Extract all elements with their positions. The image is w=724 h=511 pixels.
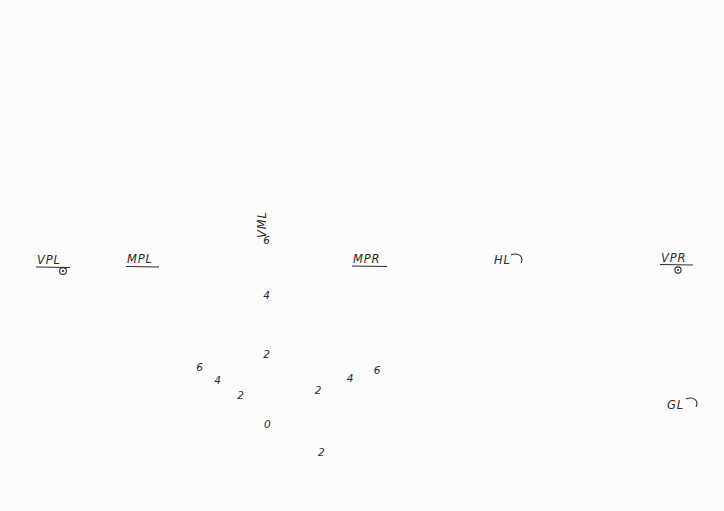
vpl-underline xyxy=(36,267,70,268)
vml-scale-2: 2 xyxy=(263,348,270,360)
gl-curl-arrow-icon xyxy=(686,398,697,407)
left-diag-scale-4: 4 xyxy=(214,374,221,386)
vanishing-point-right-dot xyxy=(677,269,679,271)
left-diag-scale-6: 6 xyxy=(196,361,203,373)
mpr-underline xyxy=(352,266,387,267)
vanishing-point-left-dot xyxy=(62,270,64,272)
right-diag-scale-4: 4 xyxy=(347,372,354,384)
annotations: VPL MPL MPR HL VPR GL VML 0 6 4 2 6 4 2 … xyxy=(36,211,697,458)
hl-curl-arrow-icon xyxy=(511,254,522,263)
mpr-label: MPR xyxy=(353,252,380,266)
right-diag-scale-6: 6 xyxy=(374,364,381,376)
vpr-label: VPR xyxy=(661,251,686,265)
hl-label: HL xyxy=(494,253,511,267)
vpr-underline xyxy=(660,265,693,266)
left-diag-scale-2: 2 xyxy=(237,389,244,401)
perspective-construction-drawing: VPL MPL MPR HL VPR GL VML 0 6 4 2 6 4 2 … xyxy=(0,0,724,511)
origin-label: 0 xyxy=(264,418,271,430)
mpl-underline xyxy=(126,267,159,268)
vml-scale-4: 4 xyxy=(263,289,270,301)
vml-scale-6: 6 xyxy=(263,234,270,246)
vpl-label: VPL xyxy=(37,253,61,267)
mpl-label: MPL xyxy=(127,252,153,266)
gl-label: GL xyxy=(667,398,684,412)
left-diag-front-scale-2: 2 xyxy=(318,446,325,458)
right-diag-scale-2: 2 xyxy=(315,384,322,396)
construction-canvas: VPL MPL MPR HL VPR GL VML 0 6 4 2 6 4 2 … xyxy=(0,0,724,511)
